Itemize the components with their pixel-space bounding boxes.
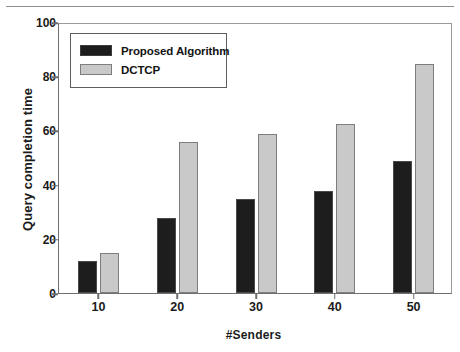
y-axis-tick-label: 20	[0, 233, 56, 247]
y-axis-tick-label: 60	[0, 124, 56, 138]
x-axis-tick-label: 40	[305, 300, 365, 314]
bar-proposed-algorithm-20	[157, 218, 176, 293]
legend-entry: Proposed Algorithm	[80, 41, 218, 60]
legend-entry: DCTCP	[80, 60, 218, 79]
legend-label-dctcp: DCTCP	[121, 64, 160, 76]
bar-proposed-algorithm-10	[78, 261, 97, 293]
y-axis-tick-label: 0	[0, 287, 56, 301]
bar-dctcp-50	[415, 64, 434, 293]
y-axis-tick-label: 40	[0, 179, 56, 193]
x-axis-tick-mark	[413, 294, 415, 299]
x-axis-tick-label: 10	[68, 300, 128, 314]
x-axis-tick-mark	[98, 294, 100, 299]
bar-proposed-algorithm-30	[236, 199, 255, 293]
x-axis-tick-mark	[255, 294, 257, 299]
top-divider-rule	[6, 6, 454, 7]
bar-dctcp-40	[336, 124, 355, 293]
x-axis-tick-label: 50	[384, 300, 444, 314]
chart-legend: Proposed Algorithm DCTCP	[70, 33, 227, 88]
x-axis-tick-mark	[334, 294, 336, 299]
legend-swatch-proposed-algorithm	[80, 45, 112, 56]
y-axis-tick-label: 80	[0, 70, 56, 84]
legend-label-proposed-algorithm: Proposed Algorithm	[121, 45, 229, 57]
bar-proposed-algorithm-50	[393, 161, 412, 293]
bar-proposed-algorithm-40	[314, 191, 333, 293]
x-axis-tick-label: 20	[147, 300, 207, 314]
bar-chart-figure: Query completion time #Senders 020406080…	[0, 0, 460, 352]
x-axis-title: #Senders	[55, 328, 452, 342]
x-axis-tick-label: 30	[226, 300, 286, 314]
bar-dctcp-30	[258, 134, 277, 293]
bar-dctcp-10	[100, 253, 119, 293]
x-axis-tick-mark	[176, 294, 178, 299]
y-axis-tick-label: 100	[0, 16, 56, 30]
legend-swatch-dctcp	[80, 64, 112, 75]
bar-dctcp-20	[179, 142, 198, 293]
